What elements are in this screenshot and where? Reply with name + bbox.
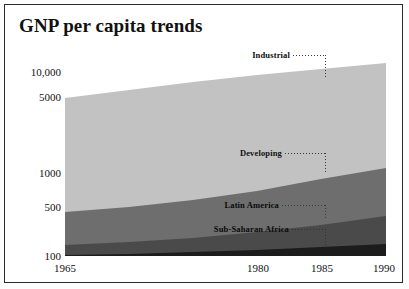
series-label-sub-saharan-africa: Sub-Saharan Africa [214, 224, 289, 234]
y-tick-100: 100 [45, 251, 62, 262]
leader-drop-latin-america [325, 205, 326, 218]
x-tick-1965: 1965 [54, 262, 76, 274]
x-tick-1980: 1980 [247, 262, 269, 274]
series-label-developing: Developing [240, 148, 282, 158]
y-tick-1000: 1000 [39, 168, 61, 179]
x-tick-1990: 1990 [373, 262, 395, 274]
series-label-industrial: Industrial [252, 50, 290, 60]
x-tick-1985: 1985 [311, 262, 333, 274]
leader-line-latin-america [282, 205, 326, 206]
y-tick-5000: 5000 [39, 92, 61, 103]
leader-line-developing [285, 153, 326, 154]
leader-line-sub-saharan-africa [292, 229, 326, 230]
y-axis: 10,000 5000 1000 500 100 [5, 5, 61, 289]
y-tick-500: 500 [45, 202, 62, 213]
chart-figure: GNP per capita trends 10,000 5000 1000 5… [4, 4, 403, 283]
leader-line-industrial [293, 55, 326, 56]
series-label-latin-america: Latin America [224, 200, 279, 210]
leader-drop-sub-saharan-africa [325, 229, 326, 248]
leader-drop-industrial [325, 55, 326, 77]
leader-drop-developing [325, 153, 326, 173]
y-tick-10000: 10,000 [31, 67, 61, 78]
